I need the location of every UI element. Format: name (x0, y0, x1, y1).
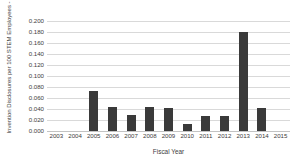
bar-slot (159, 21, 178, 131)
y-axis-tick-label: 0.060 (29, 95, 44, 101)
y-axis-tick-label: 0.080 (29, 84, 44, 90)
x-axis-tick-label: 2014 (253, 133, 272, 143)
plot-area (47, 21, 290, 131)
y-axis-tick-label: 0.160 (29, 40, 44, 46)
y-axis-tick-label: 0.180 (29, 29, 44, 35)
bar-slot (140, 21, 159, 131)
y-axis-tick-label: 0.100 (29, 73, 44, 79)
bar[interactable] (145, 107, 154, 131)
x-axis-tick-label: 2009 (159, 133, 178, 143)
x-axis-tick-label: 2005 (84, 133, 103, 143)
y-axis-tick-label: 0.200 (29, 18, 44, 24)
y-axis-tick-label: 0.120 (29, 62, 44, 68)
x-axis-tick-label: 2010 (178, 133, 197, 143)
x-axis-tick-label: 2006 (103, 133, 122, 143)
x-axis-tick-label: 2008 (140, 133, 159, 143)
bar-slot (178, 21, 197, 131)
bar[interactable] (127, 115, 136, 131)
y-axis-tick-label: 0.020 (29, 117, 44, 123)
x-axis-tick-label: 2013 (234, 133, 253, 143)
x-axis-title: Fiscal Year (47, 148, 290, 155)
bar[interactable] (239, 32, 248, 131)
x-axis-tick-label: 2011 (197, 133, 216, 143)
y-axis-title-text: Invention Disclosures per 100 STEM Emplo… (5, 6, 12, 134)
y-axis-tick-labels: 0.2000.1800.1600.1400.1200.1000.0800.060… (16, 15, 46, 137)
bar-slot (122, 21, 141, 131)
bar-chart: Invention Disclosures per 100 STEM Emplo… (0, 0, 297, 162)
bar[interactable] (164, 108, 173, 131)
bar-slot (103, 21, 122, 131)
bar-slot (253, 21, 272, 131)
bar-slot (215, 21, 234, 131)
x-axis-tick-label: 2012 (215, 133, 234, 143)
bar[interactable] (201, 116, 210, 131)
bar-slot (234, 21, 253, 131)
x-axis-tick-label: 2015 (271, 133, 290, 143)
x-axis-tick-label: 2004 (66, 133, 85, 143)
bar[interactable] (257, 108, 266, 131)
x-axis-tick-label: 2007 (122, 133, 141, 143)
bar[interactable] (183, 124, 192, 131)
y-axis-tick-label: 0.140 (29, 51, 44, 57)
y-axis-tick-label: 0.000 (29, 128, 44, 134)
bar-slot (197, 21, 216, 131)
bar-slot (84, 21, 103, 131)
bar-slot (271, 21, 290, 131)
x-axis-tick-label: 2003 (47, 133, 66, 143)
y-axis-tick-label: 0.040 (29, 106, 44, 112)
bar[interactable] (108, 107, 117, 131)
bars-layer (47, 21, 290, 131)
bar[interactable] (89, 91, 98, 131)
bar[interactable] (220, 116, 229, 131)
x-axis-tick-labels: 2003200420052006200720082009201020112012… (47, 133, 290, 143)
bar-slot (47, 21, 66, 131)
bar-slot (66, 21, 85, 131)
